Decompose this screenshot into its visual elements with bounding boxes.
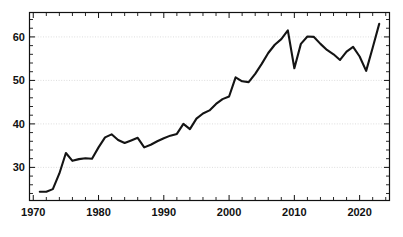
line-chart: 30405060 197019801990200020102020 (0, 0, 403, 237)
chart-container: 30405060 197019801990200020102020 (0, 0, 403, 237)
x-tick-label: 2000 (217, 206, 241, 218)
y-tick-label: 60 (13, 31, 25, 43)
x-tick-label: 1970 (21, 206, 45, 218)
plot-frame (30, 13, 390, 201)
y-tick-label: 30 (13, 161, 25, 173)
tick-marks (30, 13, 389, 200)
y-tick-label: 50 (13, 74, 25, 86)
data-series-line (40, 24, 379, 192)
x-tick-label: 2010 (282, 206, 306, 218)
y-tick-label: 40 (13, 118, 25, 130)
x-axis-tick-labels: 197019801990200020102020 (21, 206, 372, 218)
x-tick-label: 1980 (86, 206, 110, 218)
x-tick-label: 2020 (347, 206, 371, 218)
x-tick-label: 1990 (152, 206, 176, 218)
y-axis-tick-labels: 30405060 (13, 31, 25, 173)
